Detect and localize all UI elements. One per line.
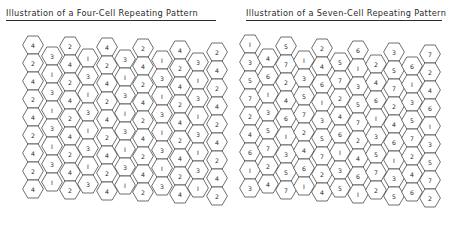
hex-cell-number: 5 xyxy=(374,151,378,158)
hex-cell: 2 xyxy=(366,55,387,73)
hex-cell: 6 xyxy=(384,133,405,151)
hex-cell: 3 xyxy=(384,43,405,61)
hex-cell: 3 xyxy=(402,93,423,111)
hex-cell: I xyxy=(276,127,297,145)
hex-cell-number: 3 xyxy=(338,167,342,174)
hex-cell-number: 4 xyxy=(266,55,270,62)
hex-cell-number: 5 xyxy=(320,135,324,142)
hex-cell: 3 xyxy=(240,179,261,197)
hex-cell-number: I xyxy=(339,149,341,156)
hex-cell: 3 xyxy=(384,169,405,187)
hex-cell-number: 7 xyxy=(284,61,288,68)
hex-cell-number: 6 xyxy=(410,189,414,196)
hex-cell: 6 xyxy=(240,143,261,161)
hex-cell-number: 5 xyxy=(248,77,252,84)
hex-cell-number: 3 xyxy=(248,185,252,192)
hex-cell-number: 6 xyxy=(266,73,270,80)
hex-cell: 5 xyxy=(312,129,333,147)
hex-cell-number: I xyxy=(321,99,323,106)
hex-cell-number: 6 xyxy=(302,165,306,172)
hex-cell: 5 xyxy=(330,179,351,197)
hex-cell-number: 7 xyxy=(410,135,414,142)
hex-cell-number: 5 xyxy=(392,67,396,74)
hex-cell-number: 2 xyxy=(410,153,414,160)
hex-cell-number: 4 xyxy=(428,87,432,94)
hex-cell: 7 xyxy=(348,113,369,131)
hex-cell: I xyxy=(294,177,315,195)
hex-cell: 6 xyxy=(366,91,387,109)
hex-cell: I xyxy=(366,109,387,127)
hex-cell-number: I xyxy=(357,65,359,72)
hex-cell: 2 xyxy=(312,165,333,183)
hex-cell-number: I xyxy=(249,41,251,48)
hex-cell-number: 2 xyxy=(320,45,324,52)
hex-cell: 7 xyxy=(420,171,441,189)
hex-cell: 3 xyxy=(420,135,441,153)
hex-cell-number: 2 xyxy=(266,163,270,170)
hex-cell: 2 xyxy=(294,123,315,141)
hex-cell: I xyxy=(258,85,279,103)
hex-cell-number: 7 xyxy=(374,169,378,176)
hex-cell: 5 xyxy=(366,145,387,163)
hex-cell-number: 7 xyxy=(302,111,306,118)
hex-cell: 6 xyxy=(330,125,351,143)
hex-cell: 6 xyxy=(258,67,279,85)
hex-cell: I xyxy=(420,117,441,135)
hex-cell: 7 xyxy=(330,71,351,89)
hex-cell: 6 xyxy=(276,109,297,127)
hex-cell: 2 xyxy=(348,131,369,149)
hex-cell-number: 3 xyxy=(410,99,414,106)
hex-cell: I xyxy=(240,161,261,179)
hex-cell-number: I xyxy=(303,183,305,190)
hex-cell: 4 xyxy=(402,165,423,183)
hex-cell: 4 xyxy=(312,183,333,201)
hex-cell: 7 xyxy=(420,45,441,63)
hex-cell: 4 xyxy=(294,141,315,159)
hex-cell: 6 xyxy=(294,159,315,177)
hex-cell-number: I xyxy=(357,191,359,198)
hex-cell-number: 5 xyxy=(338,185,342,192)
hex-cell: 2 xyxy=(258,157,279,175)
hex-cell-number: I xyxy=(393,157,395,164)
hex-cell: 3 xyxy=(276,145,297,163)
hex-cell-number: 5 xyxy=(356,101,360,108)
hex-cell: 4 xyxy=(312,57,333,75)
hex-cell: 7 xyxy=(240,89,261,107)
hex-cell-number: I xyxy=(249,167,251,174)
hex-cell-number: 4 xyxy=(302,147,306,154)
hex-cell: 4 xyxy=(384,115,405,133)
hex-cell-number: I xyxy=(411,81,413,88)
hex-cell-number: 3 xyxy=(392,49,396,56)
hex-cell: I xyxy=(348,185,369,203)
hex-cell: 4 xyxy=(330,107,351,125)
hex-cell-number: 4 xyxy=(374,79,378,86)
hex-cell-number: 4 xyxy=(338,113,342,120)
hex-cell: 4 xyxy=(366,73,387,91)
hex-cell: 2 xyxy=(240,107,261,125)
hex-cell: 2 xyxy=(384,97,405,115)
hex-cell-number: 2 xyxy=(248,113,252,120)
hex-cell: 3 xyxy=(258,103,279,121)
hex-cell: I xyxy=(402,75,423,93)
hex-cell: 3 xyxy=(312,111,333,129)
hex-cell: 2 xyxy=(330,89,351,107)
hex-cell-number: 7 xyxy=(338,77,342,84)
hex-cell-number: 2 xyxy=(302,129,306,136)
hex-cell: 5 xyxy=(258,121,279,139)
hex-cell-number: 7 xyxy=(356,119,360,126)
hex-cell: 7 xyxy=(366,163,387,181)
hex-cell-number: 5 xyxy=(302,93,306,100)
hex-cell: 7 xyxy=(294,105,315,123)
hex-cell-number: I xyxy=(267,91,269,98)
hex-cell: 5 xyxy=(240,71,261,89)
hex-cell-number: 3 xyxy=(302,75,306,82)
hex-cell: 3 xyxy=(366,127,387,145)
hex-cell-number: 3 xyxy=(320,117,324,124)
hex-cell-number: 2 xyxy=(392,103,396,110)
hex-cell-number: 7 xyxy=(320,153,324,160)
hex-cell: 7 xyxy=(276,55,297,73)
hex-cell: 4 xyxy=(420,81,441,99)
hex-cell: 4 xyxy=(258,175,279,193)
hex-cell: I xyxy=(294,51,315,69)
hex-cell-number: 3 xyxy=(248,59,252,66)
